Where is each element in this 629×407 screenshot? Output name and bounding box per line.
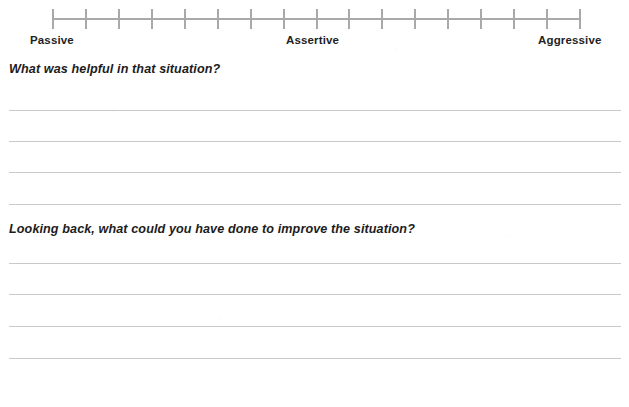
- scale-tick: [85, 9, 87, 29]
- assertiveness-scale: Passive Assertive Aggressive: [0, 0, 629, 56]
- question-helpful: What was helpful in that situation?: [9, 62, 220, 76]
- scale-tick: [151, 9, 153, 29]
- answer-line[interactable]: [9, 263, 621, 264]
- scale-tick: [217, 9, 219, 29]
- scale-tick: [348, 9, 350, 29]
- scale-tick: [546, 9, 548, 29]
- answer-line[interactable]: [9, 358, 621, 359]
- scale-tick: [52, 9, 54, 29]
- answer-line[interactable]: [9, 110, 621, 111]
- scale-tick: [513, 9, 515, 29]
- scale-tick: [381, 9, 383, 29]
- scale-tick: [316, 9, 318, 29]
- scale-axis: [53, 18, 580, 20]
- answer-line[interactable]: [9, 141, 621, 142]
- scale-tick: [414, 9, 416, 29]
- scale-tick: [579, 9, 581, 29]
- scale-tick: [447, 9, 449, 29]
- scale-tick: [250, 9, 252, 29]
- scale-tick: [283, 9, 285, 29]
- question-improve: Looking back, what could you have done t…: [9, 222, 415, 236]
- scale-label-aggressive: Aggressive: [538, 34, 602, 46]
- answer-line[interactable]: [9, 326, 621, 327]
- scale-tick: [118, 9, 120, 29]
- scale-label-assertive: Assertive: [286, 34, 339, 46]
- answer-line[interactable]: [9, 204, 621, 205]
- scale-label-passive: Passive: [30, 34, 74, 46]
- answer-line[interactable]: [9, 294, 621, 295]
- answer-line[interactable]: [9, 172, 621, 173]
- scale-tick: [184, 9, 186, 29]
- scale-tick: [480, 9, 482, 29]
